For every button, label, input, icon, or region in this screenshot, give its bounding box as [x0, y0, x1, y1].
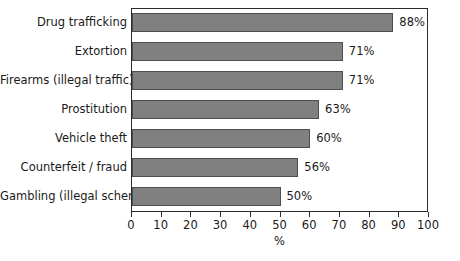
- bar-row: 63%: [132, 96, 427, 124]
- x-axis-tick: [339, 212, 340, 217]
- x-axis-tick: [220, 212, 221, 217]
- x-axis-tick: [131, 212, 132, 217]
- bar-value-label: 63%: [325, 100, 351, 119]
- category-label: Vehicle theft: [0, 124, 127, 152]
- bar-row: 71%: [132, 67, 427, 95]
- bar: [132, 187, 281, 206]
- bar-value-label: 56%: [304, 158, 330, 177]
- bar: [132, 42, 343, 61]
- x-axis-tick: [190, 212, 191, 217]
- category-label: Extortion: [0, 37, 127, 65]
- bar-value-label: 50%: [287, 187, 313, 206]
- bar-value-label: 88%: [399, 13, 425, 32]
- bar-value-label: 71%: [349, 71, 375, 90]
- category-axis-labels: Drug trafficking Extortion Firearms (ill…: [0, 8, 127, 212]
- bar: [132, 158, 298, 177]
- x-axis-tick: [309, 212, 310, 217]
- x-axis-tick: [250, 212, 251, 217]
- x-axis-tick: [428, 212, 429, 217]
- bar-value-label: 60%: [316, 129, 342, 148]
- x-axis-tick: [280, 212, 281, 217]
- bar-row: 60%: [132, 125, 427, 153]
- category-label: Drug trafficking: [0, 8, 127, 36]
- x-axis-tick-label: 100: [408, 218, 448, 232]
- bar: [132, 129, 310, 148]
- bar: [132, 13, 393, 32]
- category-label: Prostitution: [0, 95, 127, 123]
- x-axis-tick: [161, 212, 162, 217]
- bar: [132, 71, 343, 90]
- plot-area: 88% 71% 71% 63% 60% 56% 50%: [131, 8, 428, 212]
- bar: [132, 100, 319, 119]
- bar-row: 56%: [132, 154, 427, 182]
- category-label: Gambling (illegal schemes): [0, 182, 127, 210]
- bar-value-label: 71%: [349, 42, 375, 61]
- category-label: Counterfeit / fraud: [0, 153, 127, 181]
- x-axis-title: %: [131, 234, 428, 248]
- bar-row: 71%: [132, 38, 427, 66]
- bar-row: 88%: [132, 9, 427, 37]
- bar-chart: Drug trafficking Extortion Firearms (ill…: [0, 0, 460, 261]
- category-label: Firearms (illegal traffic): [0, 66, 127, 94]
- x-axis-tick: [398, 212, 399, 217]
- bar-row: 50%: [132, 183, 427, 211]
- x-axis-tick: [369, 212, 370, 217]
